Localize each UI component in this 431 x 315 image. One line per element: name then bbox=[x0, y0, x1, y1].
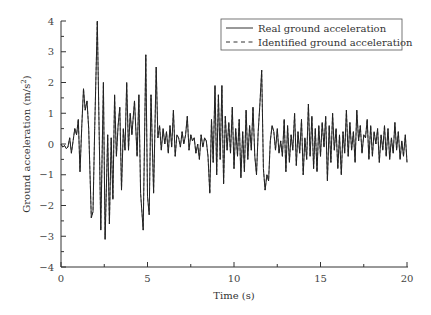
series-real-ground-acceleration bbox=[61, 21, 407, 239]
y-tick-label: 4 bbox=[48, 16, 54, 27]
y-axis-label: Ground acceleration (m/s2) bbox=[20, 75, 32, 212]
x-tick-label: 10 bbox=[228, 273, 241, 284]
legend-label-real: Real ground acceleration bbox=[258, 23, 387, 34]
y-tick-label: 1 bbox=[48, 108, 54, 119]
legend-label-identified: Identified ground acceleration bbox=[258, 37, 413, 48]
plot-area bbox=[61, 21, 407, 239]
x-tick-label: 20 bbox=[401, 273, 414, 284]
x-tick-label: 0 bbox=[58, 273, 64, 284]
axis-ticks: 05101520−4−3−2−101234 bbox=[39, 16, 413, 285]
acceleration-chart: 05101520−4−3−2−101234 Time (s) Ground ac… bbox=[0, 0, 431, 315]
x-tick-label: 15 bbox=[314, 273, 327, 284]
y-tick-label: −1 bbox=[39, 169, 54, 180]
y-tick-label: 0 bbox=[48, 139, 54, 150]
series-identified-ground-acceleration bbox=[61, 21, 407, 239]
legend: Real ground acceleration Identified grou… bbox=[221, 19, 413, 50]
x-tick-label: 5 bbox=[144, 273, 150, 284]
y-tick-label: 3 bbox=[48, 46, 54, 57]
y-tick-label: 2 bbox=[48, 77, 54, 88]
y-tick-label: −4 bbox=[39, 262, 54, 273]
y-tick-label: −3 bbox=[39, 231, 54, 242]
y-tick-label: −2 bbox=[39, 200, 54, 211]
x-axis-label: Time (s) bbox=[213, 290, 254, 301]
